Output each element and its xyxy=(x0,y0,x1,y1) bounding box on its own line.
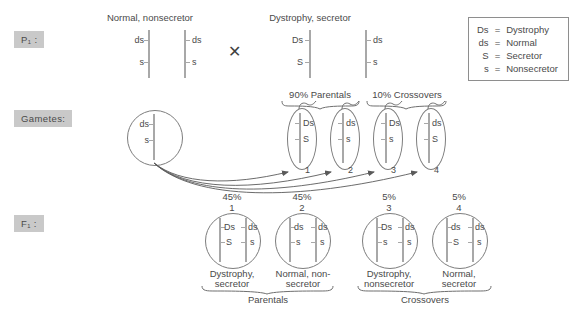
f1-2-tick-r2 xyxy=(311,242,315,243)
p1-left-homolog-a-bar xyxy=(148,30,150,78)
f1-4-bar-left xyxy=(446,218,448,262)
p1-right-homolog-a-tick-2 xyxy=(305,62,309,63)
f1-1-allele-r2: s xyxy=(250,237,255,247)
f1-group-label-parentals: Parentals xyxy=(201,294,335,305)
gamete-3-tick-2 xyxy=(381,139,385,140)
gamete-1-tick-2 xyxy=(295,139,299,140)
gamete-maternal-tick-2 xyxy=(149,140,153,141)
p1-right-homolog-a-tick-1 xyxy=(305,40,309,41)
gamete-2-tail-icon xyxy=(340,100,362,110)
gamete-4-tick-2 xyxy=(424,139,428,140)
legend-equals: = xyxy=(492,23,504,36)
p1-right-phenotype: Dystrophy, secretor xyxy=(240,12,380,23)
row-label-p1-text: P₁ : xyxy=(21,34,37,45)
legend-table: Ds = Dystrophy ds = Normal S = Secretor … xyxy=(474,23,561,75)
gamete-4-allele-2: S xyxy=(432,134,438,144)
f1-1-percent: 45% xyxy=(202,191,262,202)
p1-right-homolog-b-allele-2: s xyxy=(373,57,378,67)
f1-3-bar-right xyxy=(402,218,404,262)
p1-left-homolog-a-tick-1 xyxy=(144,40,148,41)
legend-symbol: S xyxy=(474,49,492,62)
p1-right-homolog-b-tick-2 xyxy=(367,62,371,63)
row-label-f1: F₁ : xyxy=(14,215,44,232)
p1-left-homolog-b-tick-1 xyxy=(186,40,190,41)
gamete-2-tick-1 xyxy=(338,123,342,124)
f1-4-number: 4 xyxy=(429,202,489,213)
group-header-parentals: 90% Parentals xyxy=(281,89,359,100)
f1-4-percent: 5% xyxy=(429,191,489,202)
p1-right-homolog-a-bar xyxy=(309,30,311,78)
p1-right-homolog-a-allele-1: Ds xyxy=(283,35,303,45)
f1-1-allele-r1: ds xyxy=(248,222,258,232)
p1-left-homolog-a-allele-1: ds xyxy=(124,35,144,45)
legend-equals: = xyxy=(492,49,504,62)
f1-1-tick-r1 xyxy=(241,227,245,228)
row-label-f1-text: F₁ : xyxy=(21,218,37,229)
f1-1-tick-r2 xyxy=(241,242,245,243)
gamete-4-allele-1: ds xyxy=(432,118,442,128)
f1-3-bar-left xyxy=(376,218,378,262)
p1-right-homolog-b-tick-1 xyxy=(367,40,371,41)
arrow-to-gamete-3 xyxy=(154,163,374,189)
f1-4-allele-l2: S xyxy=(453,237,459,247)
f1-4-tick-r1 xyxy=(468,227,472,228)
legend-meaning: Secretor xyxy=(503,49,561,62)
p1-left-homolog-a-allele-2: s xyxy=(124,57,144,67)
f1-3-percent: 5% xyxy=(359,191,419,202)
p1-right-homolog-a-allele-2: S xyxy=(283,57,303,67)
f1-3-tick-r2 xyxy=(398,242,402,243)
legend-box: Ds = Dystrophy ds = Normal S = Secretor … xyxy=(468,17,569,81)
cross-symbol: ✕ xyxy=(228,44,241,60)
f1-2-bar-right xyxy=(315,218,317,262)
gamete-3-tail-icon xyxy=(383,100,405,110)
p1-left-homolog-b-bar xyxy=(184,30,186,78)
p1-left-phenotype: Normal, nonsecretor xyxy=(85,12,215,23)
gamete-2-allele-2: s xyxy=(346,134,351,144)
gamete-4-tick-1 xyxy=(424,123,428,124)
legend-row: Ds = Dystrophy xyxy=(474,23,561,36)
gamete-maternal-allele-1: ds xyxy=(128,119,149,129)
f1-3-allele-r1: ds xyxy=(405,222,415,232)
p1-right-homolog-b-allele-1: ds xyxy=(373,35,383,45)
f1-2-allele-l1: ds xyxy=(294,222,304,232)
gamete-1-tail-icon xyxy=(297,100,319,110)
f1-4-bar-right xyxy=(472,218,474,262)
gamete-1-tick-1 xyxy=(295,123,299,124)
gamete-1-allele-1: Ds xyxy=(303,118,314,128)
f1-group-label-crossovers: Crossovers xyxy=(357,294,493,305)
f1-2-allele-r1: ds xyxy=(318,222,328,232)
gamete-2-tick-2 xyxy=(338,139,342,140)
legend-meaning: Dystrophy xyxy=(503,23,561,36)
f1-1-bar-left xyxy=(219,218,221,262)
row-label-gametes-text: Gametes: xyxy=(21,113,65,124)
f1-2-allele-l2: s xyxy=(296,237,301,247)
gamete-4-tail-icon xyxy=(426,100,448,110)
p1-left-homolog-b-allele-1: ds xyxy=(192,35,202,45)
f1-4-allele-r1: ds xyxy=(475,222,485,232)
legend-equals: = xyxy=(492,62,504,75)
f1-2-tick-l2 xyxy=(291,242,295,243)
legend-symbol: ds xyxy=(474,36,492,49)
f1-4-tick-r2 xyxy=(468,242,472,243)
f1-1-bar-right xyxy=(245,218,247,262)
arrow-to-gamete-4 xyxy=(154,163,417,193)
f1-2-tick-r1 xyxy=(311,227,315,228)
p1-left-homolog-a-tick-2 xyxy=(144,62,148,63)
f1-3-allele-l2: s xyxy=(383,237,388,247)
f1-1-allele-l1: Ds xyxy=(224,222,235,232)
f1-1-tick-l2 xyxy=(221,242,225,243)
legend-row: ds = Normal xyxy=(474,36,561,49)
f1-1-number: 1 xyxy=(202,202,262,213)
f1-3-tick-r1 xyxy=(398,227,402,228)
f1-3-number: 3 xyxy=(359,202,419,213)
f1-4-tick-l2 xyxy=(448,242,452,243)
f1-4-allele-r2: s xyxy=(477,237,482,247)
legend-meaning: Normal xyxy=(503,36,561,49)
arrow-to-gamete-1 xyxy=(154,163,288,181)
legend-symbol: s xyxy=(474,62,492,75)
row-label-p1: P₁ : xyxy=(14,31,44,48)
p1-left-homolog-b-allele-2: s xyxy=(192,57,197,67)
legend-row: s = Nonsecretor xyxy=(474,62,561,75)
genetics-linkage-diagram: P₁ : Gametes: F₁ : Normal, nonsecretor d… xyxy=(0,0,569,309)
gamete-maternal-allele-2: s xyxy=(128,135,149,145)
